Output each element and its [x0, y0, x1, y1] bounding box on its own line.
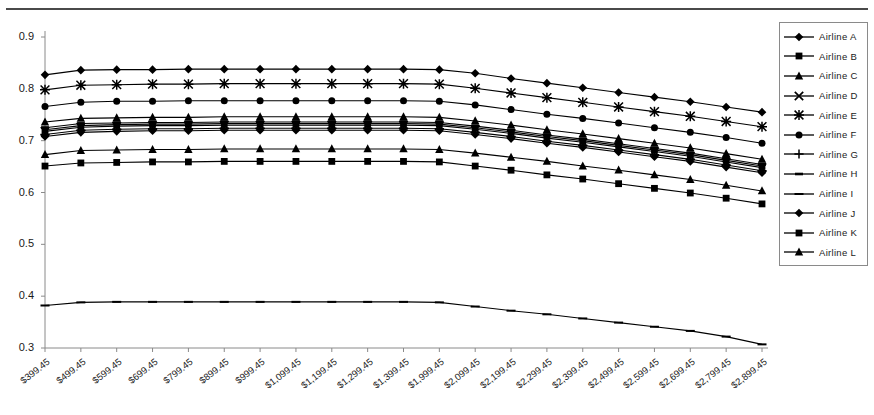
diamond-marker-icon	[784, 30, 814, 44]
star-marker-icon	[784, 108, 814, 122]
y-tick-label: 0.9	[8, 30, 34, 42]
line-chart: 0.90.80.70.60.50.40.3 $399.45$499.45$599…	[0, 18, 770, 415]
y-tick-label: 0.6	[8, 186, 34, 198]
legend-item-airline-l[interactable]: Airline L	[784, 243, 865, 263]
legend-item-label: Airline A	[814, 31, 857, 42]
legend-item-airline-j[interactable]: Airline J	[784, 203, 865, 223]
legend-item-label: Airline B	[814, 51, 857, 62]
dash-marker-icon	[784, 167, 814, 181]
y-tick-label: 0.7	[8, 134, 34, 146]
top-divider	[6, 8, 868, 10]
legend-item-label: Airline D	[814, 90, 858, 101]
legend-item-airline-k[interactable]: Airline K	[784, 223, 865, 243]
legend-item-label: Airline I	[814, 188, 853, 199]
series-airline-i	[41, 301, 767, 346]
legend-item-airline-d[interactable]: Airline D	[784, 86, 865, 106]
legend-item-label: Airline F	[814, 129, 857, 140]
legend-item-label: Airline J	[814, 208, 856, 219]
triangle-marker-icon	[784, 69, 814, 83]
legend-item-airline-a[interactable]: Airline A	[784, 27, 865, 47]
legend-item-airline-f[interactable]: Airline F	[784, 125, 865, 145]
legend-item-label: Airline K	[814, 227, 857, 238]
legend-item-label: Airline E	[814, 110, 857, 121]
legend-item-label: Airline H	[814, 168, 858, 179]
triangle-marker-icon	[784, 245, 814, 259]
legend-item-label: Airline G	[814, 149, 858, 160]
legend-item-airline-g[interactable]: Airline G	[784, 145, 865, 165]
legend-item-airline-e[interactable]: Airline E	[784, 105, 865, 125]
y-tick-label: 0.8	[8, 82, 34, 94]
legend-item-label: Airline L	[814, 247, 856, 258]
chart-legend: Airline AAirline BAirline CAirline DAirl…	[779, 22, 868, 266]
legend-item-label: Airline C	[814, 70, 858, 81]
diamond-marker-icon	[784, 206, 814, 220]
legend-item-airline-i[interactable]: Airline I	[784, 184, 865, 204]
plus-marker-icon	[784, 147, 814, 161]
square-marker-icon	[784, 49, 814, 63]
circle-marker-icon	[784, 128, 814, 142]
square-marker-icon	[784, 226, 814, 240]
legend-item-airline-h[interactable]: Airline H	[784, 164, 865, 184]
legend-item-airline-c[interactable]: Airline C	[784, 66, 865, 86]
series-airline-b	[42, 158, 766, 207]
y-tick-label: 0.5	[8, 237, 34, 249]
line-marker-icon	[784, 187, 814, 201]
legend-item-airline-b[interactable]: Airline B	[784, 47, 865, 67]
y-tick-label: 0.4	[8, 289, 34, 301]
y-tick-label: 0.3	[8, 341, 34, 353]
x-marker-icon	[784, 89, 814, 103]
